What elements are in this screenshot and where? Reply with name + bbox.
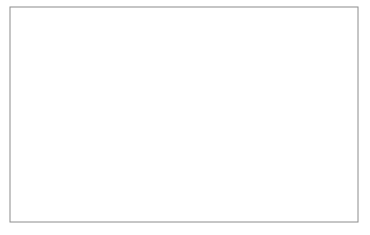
plot-background (10, 7, 358, 222)
eye-diagram-chart (0, 0, 370, 235)
figure-container (0, 0, 370, 235)
